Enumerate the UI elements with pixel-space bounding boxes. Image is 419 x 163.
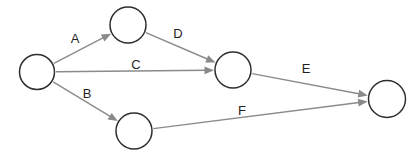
- edge-D: D: [146, 26, 216, 63]
- arrowhead-icon-D: [205, 55, 215, 62]
- node-3: [116, 113, 152, 149]
- edge-line-E: [252, 74, 361, 95]
- node-2: [110, 7, 146, 43]
- node-4: [215, 52, 251, 88]
- diagram-canvas: ABCDEF: [0, 0, 419, 163]
- arrowhead-icon-E: [358, 90, 368, 98]
- edge-B: B: [53, 82, 118, 121]
- arrowhead-icon-B: [108, 113, 118, 121]
- edge-label-D: D: [173, 26, 182, 41]
- edge-label-E: E: [302, 61, 311, 76]
- edge-label-F: F: [238, 103, 246, 118]
- node-1: [20, 55, 55, 90]
- edge-A: A: [54, 31, 111, 64]
- edge-line-A: [54, 37, 105, 64]
- edge-C: C: [56, 57, 214, 74]
- arrowhead-icon-C: [205, 66, 215, 74]
- node-5: [369, 81, 406, 118]
- edge-label-A: A: [71, 31, 80, 46]
- arrowhead-icon-F: [358, 99, 368, 107]
- edge-label-B: B: [83, 86, 92, 101]
- edge-label-C: C: [131, 57, 140, 72]
- edge-line-F: [153, 102, 361, 128]
- network-diagram: ABCDEF: [0, 0, 419, 163]
- edge-E: E: [252, 61, 368, 98]
- edge-F: F: [153, 99, 367, 129]
